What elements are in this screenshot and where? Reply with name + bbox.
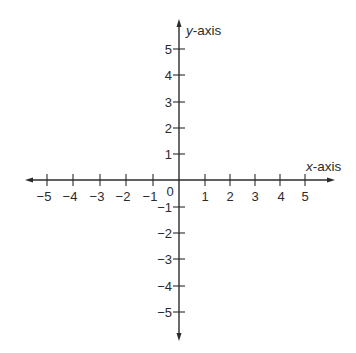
origin-label: 0: [166, 184, 173, 199]
x-tick-label: −2: [116, 189, 131, 204]
x-tick-label: 4: [277, 189, 284, 204]
y-tick-label: −2: [157, 226, 172, 241]
y-tick-label: 4: [165, 68, 172, 83]
x-axis-right-arrow-icon: [327, 178, 335, 183]
y-tick-label: 5: [165, 42, 172, 57]
x-axis-title: x-axis: [305, 159, 342, 174]
coordinate-plane: −5 −4 −3 −2 −1 1 2 3 4 5 x-axis: [0, 0, 356, 353]
y-axis-suffix: -axis: [193, 23, 222, 38]
y-axis-down-arrow-icon: [177, 333, 182, 341]
x-tick-label: −1: [143, 189, 158, 204]
x-axis-left-arrow-icon: [25, 178, 33, 183]
x-tick-label: −4: [63, 189, 78, 204]
x-axis-suffix: -axis: [313, 159, 342, 174]
x-tick-label: −5: [37, 189, 52, 204]
y-axis-up-arrow-icon: [177, 19, 182, 27]
x-axis: −5 −4 −3 −2 −1 1 2 3 4 5 x-axis: [25, 159, 342, 204]
y-axis-tick-labels: 5 4 3 2 1 −1 −2 −3 −4 −5: [157, 42, 172, 320]
x-tick-label: 3: [251, 189, 258, 204]
y-axis-title: y-axis: [185, 23, 222, 38]
y-tick-label: 3: [165, 95, 172, 110]
x-tick-label: 2: [226, 189, 233, 204]
x-tick-label: −3: [90, 189, 105, 204]
y-tick-label: −4: [157, 279, 172, 294]
y-tick-label: 1: [165, 147, 172, 162]
y-tick-label: 2: [165, 121, 172, 136]
x-tick-label: 1: [201, 189, 208, 204]
y-tick-label: −5: [157, 305, 172, 320]
y-tick-label: −3: [157, 252, 172, 267]
x-tick-label: 5: [301, 189, 308, 204]
y-tick-label: −1: [157, 200, 172, 215]
